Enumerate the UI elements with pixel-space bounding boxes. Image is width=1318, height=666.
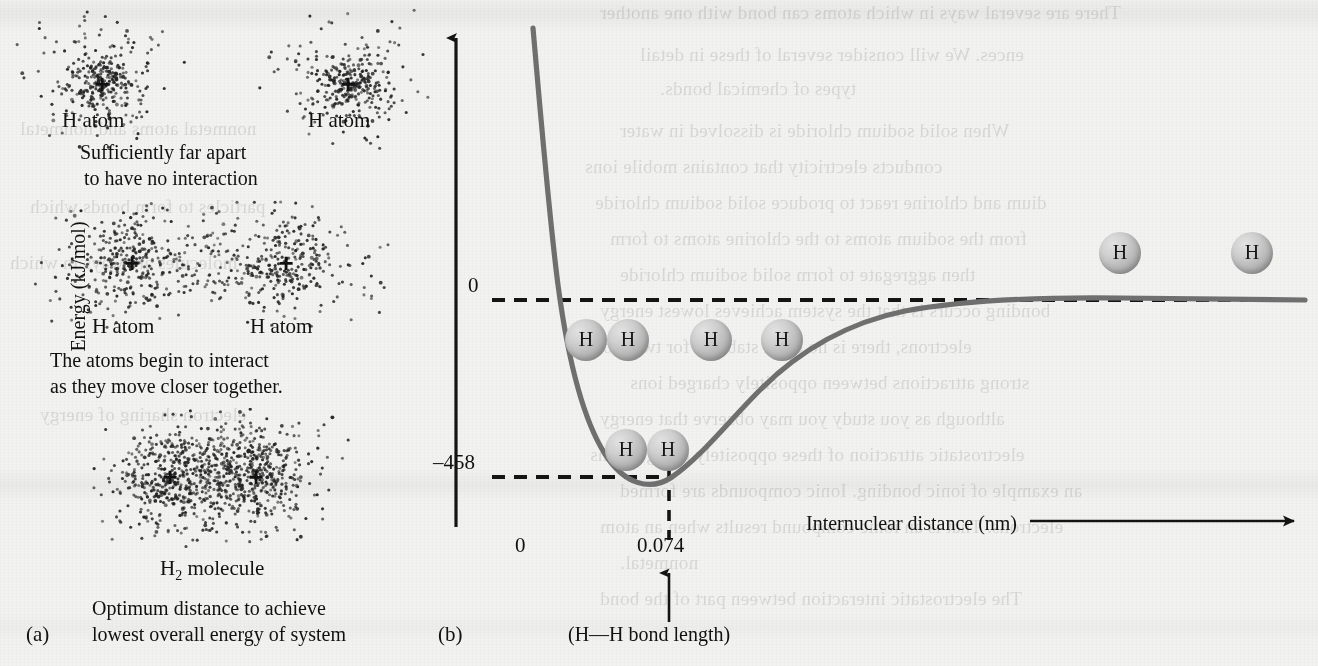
sphere-letter: H bbox=[579, 328, 593, 351]
free-atom-mid-right: H bbox=[761, 319, 803, 361]
sphere-letter: H bbox=[619, 438, 633, 461]
bond-length-note: (H—H bond length) bbox=[568, 622, 730, 646]
sphere-letter: H bbox=[1113, 241, 1127, 264]
x-tick-label-bond-length: 0.074 bbox=[637, 533, 684, 559]
sphere-letter: H bbox=[1245, 241, 1259, 264]
sphere-letter: H bbox=[775, 328, 789, 351]
y-tick-label-zero: 0 bbox=[468, 273, 479, 299]
sphere-letter: H bbox=[661, 438, 675, 461]
y-tick-label-minimum: –458 bbox=[433, 450, 475, 476]
bonded-pair-upper-left-atom-1: H bbox=[565, 319, 607, 361]
far-atom-left: H bbox=[1099, 232, 1141, 274]
bonded-pair-at-minimum-atom-2: H bbox=[647, 429, 689, 471]
x-axis-title: Internuclear distance (nm) bbox=[806, 511, 1017, 535]
potential-energy-curve bbox=[533, 28, 1305, 484]
y-axis-title: Energy (kJ/mol) bbox=[67, 167, 90, 407]
x-tick-label-zero: 0 bbox=[515, 533, 526, 559]
bonded-pair-upper-left-atom-2: H bbox=[607, 319, 649, 361]
sphere-letter: H bbox=[704, 328, 718, 351]
panel-b-letter: (b) bbox=[438, 622, 463, 648]
free-atom-mid-left: H bbox=[690, 319, 732, 361]
sphere-letter: H bbox=[621, 328, 635, 351]
bonded-pair-at-minimum-atom-1: H bbox=[605, 429, 647, 471]
textbook-figure-h2-bond-energy: There are several ways in which atoms ca… bbox=[0, 0, 1318, 666]
energy-distance-graph bbox=[0, 0, 1318, 666]
far-atom-right: H bbox=[1231, 232, 1273, 274]
